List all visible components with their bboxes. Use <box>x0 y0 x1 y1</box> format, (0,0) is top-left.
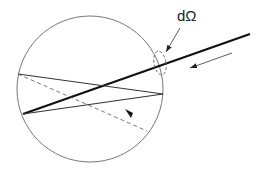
direction-arrow <box>190 53 232 68</box>
internal-chord-lower <box>23 94 163 114</box>
diagram-canvas: dΩ <box>0 0 266 171</box>
solid-angle-label: dΩ <box>177 7 197 24</box>
solid-angle-pointer <box>166 28 180 52</box>
incident-ray-thick <box>23 34 250 114</box>
scattered-ray-arrowhead-icon <box>125 109 133 118</box>
sphere-circle <box>17 16 163 162</box>
